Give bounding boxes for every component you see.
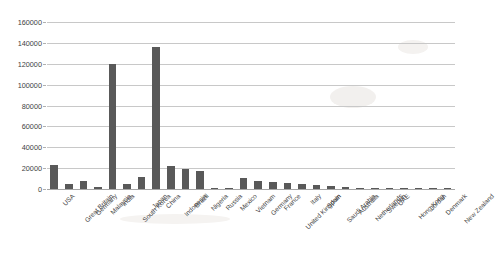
bar (269, 182, 277, 189)
bar (298, 184, 306, 189)
bar (240, 178, 248, 189)
bar (225, 188, 233, 189)
bar (429, 188, 437, 189)
bar (94, 187, 102, 189)
bar (182, 169, 190, 189)
x-axis-line (47, 189, 455, 190)
bar (356, 188, 364, 189)
y-axis-tick-mark (43, 147, 46, 148)
y-axis-tick-label: 40000 (0, 143, 42, 152)
x-axis-tick-label: Spain (326, 193, 343, 210)
x-axis-tick-label: Italy (310, 193, 323, 206)
y-axis-tick-mark (43, 43, 46, 44)
x-axis-tick-label: USA (62, 193, 76, 207)
bar (109, 64, 117, 189)
bars-layer (47, 22, 455, 189)
bar (444, 188, 452, 189)
bar (371, 188, 379, 189)
y-axis-tick-label: 20000 (0, 164, 42, 173)
bar (196, 171, 204, 189)
y-axis-tick-label: 100000 (0, 81, 42, 90)
bar (342, 187, 350, 189)
bar (284, 183, 292, 189)
y-axis-tick-label: 160000 (0, 18, 42, 27)
bar (138, 177, 146, 189)
y-axis-tick-mark (43, 168, 46, 169)
bar (211, 188, 219, 189)
y-axis-tick-mark (43, 106, 46, 107)
y-axis-tick-mark (43, 64, 46, 65)
y-axis-tick-label: 60000 (0, 122, 42, 131)
y-axis-tick-label: 0 (0, 185, 42, 194)
bar (152, 47, 160, 189)
x-axis-labels: USAGreat BritainGermanyMalaysiaIndiaSout… (47, 191, 455, 257)
bar (400, 188, 408, 189)
bar (386, 188, 394, 189)
y-axis-tick-label: 80000 (0, 102, 42, 111)
bar (123, 184, 131, 189)
x-axis-tick-label: Denmark (445, 193, 469, 217)
y-axis-tick-mark (43, 189, 46, 190)
bar (327, 186, 335, 189)
y-axis-tick-mark (43, 126, 46, 127)
bar (80, 181, 88, 189)
bar (313, 185, 321, 189)
bar (167, 166, 175, 189)
y-axis-tick-mark (43, 22, 46, 23)
bar (254, 181, 262, 189)
y-axis-tick-mark (43, 85, 46, 86)
y-axis-tick-label: 140000 (0, 39, 42, 48)
bar (415, 188, 423, 189)
bar (50, 165, 58, 189)
bar (65, 184, 73, 189)
y-axis-tick-label: 120000 (0, 60, 42, 69)
x-axis-tick-label: Brazil (194, 193, 210, 209)
